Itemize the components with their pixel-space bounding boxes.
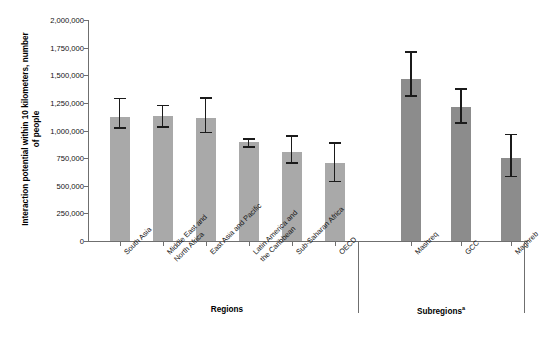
error-bar-cap-upper bbox=[286, 135, 298, 137]
error-bar-cap-upper bbox=[405, 51, 417, 53]
y-axis-tick-labels: 2,000,0001,750,0001,500,0001,250,0001,00… bbox=[18, 0, 84, 338]
y-axis-tick-label: 500,000 bbox=[57, 181, 84, 190]
x-axis-tick-mark bbox=[335, 241, 336, 246]
x-axis-tick-mark bbox=[292, 241, 293, 246]
plot-area bbox=[88, 20, 528, 241]
error-bar-line bbox=[291, 135, 292, 162]
bar-mashreq bbox=[401, 79, 421, 241]
group-separator-left bbox=[358, 241, 359, 313]
error-bar-line bbox=[334, 142, 335, 181]
error-bar-line bbox=[119, 98, 120, 127]
error-bar-line bbox=[460, 88, 461, 122]
bar-middle-east-and-north-africa bbox=[153, 116, 173, 241]
error-bar-line bbox=[410, 51, 411, 95]
error-bar-line bbox=[162, 105, 163, 127]
x-axis-tick-mark bbox=[120, 241, 121, 246]
x-axis-tick-mark bbox=[249, 241, 250, 246]
error-bar-cap-lower bbox=[243, 146, 255, 148]
group-label-subregions: Subregionsa bbox=[417, 305, 465, 316]
error-bar-cap-lower bbox=[505, 176, 517, 178]
error-bar-line bbox=[205, 97, 206, 131]
x-axis-tick-mark bbox=[163, 241, 164, 246]
y-axis-tick-label: 250,000 bbox=[57, 209, 84, 218]
error-bar-cap-lower bbox=[329, 181, 341, 183]
error-bar-cap-upper bbox=[114, 98, 126, 100]
group-label-regions: Regions bbox=[211, 305, 243, 314]
error-bar-cap-lower bbox=[455, 122, 467, 124]
bar-south-asia bbox=[110, 117, 130, 241]
error-bar-cap-lower bbox=[114, 127, 126, 129]
error-bar-cap-lower bbox=[157, 126, 169, 128]
error-bar-cap-upper bbox=[505, 134, 517, 136]
y-axis-tick-label: 1,000,000 bbox=[50, 126, 84, 135]
error-bar-cap-lower bbox=[405, 95, 417, 97]
error-bar-cap-upper bbox=[200, 97, 212, 99]
group-separator-right bbox=[524, 241, 525, 313]
error-bar-cap-upper bbox=[157, 105, 169, 107]
y-axis-tick-label: 1,750,000 bbox=[50, 43, 84, 52]
bar-gcc bbox=[451, 107, 471, 241]
x-axis-tick-mark bbox=[461, 241, 462, 246]
error-bar-cap-lower bbox=[286, 162, 298, 164]
x-axis-tick-mark bbox=[206, 241, 207, 246]
y-axis-tick-label: 1,250,000 bbox=[50, 98, 84, 107]
y-axis-tick-label: 1,500,000 bbox=[50, 71, 84, 80]
error-bar-cap-upper bbox=[455, 88, 467, 90]
error-bar-line bbox=[510, 134, 511, 176]
x-axis-tick-mark bbox=[511, 241, 512, 246]
error-bar-cap-upper bbox=[243, 138, 255, 140]
y-axis-tick-label: 2,000,000 bbox=[50, 16, 84, 25]
x-axis-tick-mark bbox=[411, 241, 412, 246]
error-bar-cap-upper bbox=[329, 142, 341, 144]
error-bar-cap-lower bbox=[200, 132, 212, 134]
footnote-marker: a bbox=[462, 305, 465, 311]
y-axis-tick-label: 750,000 bbox=[57, 154, 84, 163]
